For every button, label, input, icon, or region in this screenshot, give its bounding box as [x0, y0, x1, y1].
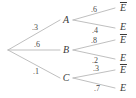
prob-C-to-Ebar: .3: [93, 65, 99, 73]
outcome-A-E: E: [120, 22, 126, 32]
prob-C-to-E: .7: [94, 85, 100, 93]
prob-root-to-A: .3: [32, 24, 38, 32]
outcome-B-E: E: [120, 53, 126, 63]
stage2-edges: [73, 8, 115, 88]
outcome-B-Ebar: E: [120, 35, 126, 45]
prob-A-to-Ebar: .6: [91, 6, 97, 14]
overbar-wrap: E: [120, 35, 126, 45]
node-label-A: A: [63, 15, 69, 25]
overbar-wrap: E: [120, 3, 126, 13]
overbar-wrap: E: [120, 65, 126, 75]
outcome-A-Ebar: E: [120, 3, 126, 13]
prob-A-to-E: .4: [92, 27, 98, 35]
probability-tree-diagram: A B C .3 .6 .1 .6 .4 .8 .2 .3 .7 E E E E…: [0, 0, 136, 98]
node-label-B: B: [63, 45, 69, 55]
prob-root-to-C: .1: [33, 68, 39, 76]
prob-B-to-Ebar: .8: [91, 37, 97, 45]
outcome-C-Ebar: E: [120, 65, 126, 75]
outcome-C-E: E: [120, 83, 126, 93]
node-label-C: C: [63, 73, 70, 83]
prob-root-to-B: .6: [34, 41, 40, 49]
